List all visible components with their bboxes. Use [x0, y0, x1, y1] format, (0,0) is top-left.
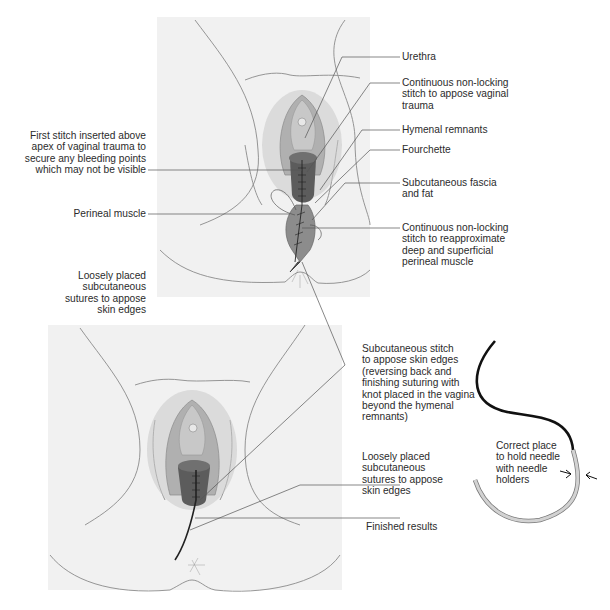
label-line: which may not be visible [0, 164, 146, 175]
label-line: Finished results [366, 521, 437, 532]
label-line: Continuous non-locking [402, 77, 508, 88]
label-line: and fat [402, 188, 497, 199]
label-line: with needle [496, 463, 560, 474]
label-line: beyond the hymenal [362, 400, 475, 411]
label-line: subcutaneous [362, 462, 443, 473]
label-first-stitch: First stitch inserted above apex of vagi… [0, 130, 146, 176]
label-line: (reversing back and [362, 366, 475, 377]
label-line: Subcutaneous fascia [402, 177, 497, 188]
label-line: apex of vaginal trauma to [0, 141, 146, 152]
label-line: First stitch inserted above [0, 130, 146, 141]
label-line: stitch to reapproximate [402, 233, 508, 244]
label-line: perineal muscle [402, 256, 508, 267]
label-subcutaneous-fascia: Subcutaneous fascia and fat [402, 177, 497, 200]
label-continuous-perineal-stitch: Continuous non-locking stitch to reappro… [402, 222, 508, 268]
label-line: Correct place [496, 440, 560, 451]
label-subcutaneous-stitch: Subcutaneous stitch to appose skin edges… [362, 343, 475, 423]
label-fourchette: Fourchette [402, 144, 451, 155]
label-line: remnants) [362, 411, 475, 422]
label-loosely-placed-left: Loosely placed subcutaneous sutures to a… [0, 270, 146, 316]
label-needle-hold: Correct place to hold needle with needle… [496, 440, 560, 486]
label-urethra: Urethra [402, 51, 436, 62]
label-line: Loosely placed [362, 451, 443, 462]
label-line: to appose skin edges [362, 354, 475, 365]
label-line: Urethra [402, 51, 436, 62]
label-line: stitch to appose vaginal [402, 88, 508, 99]
bottom-vulva [147, 390, 237, 575]
label-line: Continuous non-locking [402, 222, 508, 233]
label-line: knot placed in the vagina [362, 389, 475, 400]
label-line: secure any bleeding points [0, 153, 146, 164]
label-line: holders [496, 474, 560, 485]
label-line: Loosely placed [0, 270, 146, 281]
label-line: skin edges [0, 304, 146, 315]
label-line: finishing suturing with [362, 377, 475, 388]
label-line: sutures to appose [0, 293, 146, 304]
label-line: Perineal muscle [0, 208, 146, 219]
label-continuous-vaginal-stitch: Continuous non-locking stitch to appose … [402, 77, 508, 111]
label-loosely-placed-right: Loosely placed subcutaneous sutures to a… [362, 451, 443, 497]
label-perineal-muscle: Perineal muscle [0, 208, 146, 219]
label-line: Subcutaneous stitch [362, 343, 475, 354]
label-line: subcutaneous [0, 281, 146, 292]
label-line: skin edges [362, 485, 443, 496]
needle-illustration [475, 341, 597, 521]
label-finished-results: Finished results [366, 521, 437, 532]
label-line: Fourchette [402, 144, 451, 155]
label-hymenal-remnants: Hymenal remnants [402, 124, 488, 135]
label-line: to hold needle [496, 451, 560, 462]
label-line: trauma [402, 100, 508, 111]
label-line: sutures to appose [362, 474, 443, 485]
label-line: deep and superficial [402, 245, 508, 256]
label-line: Hymenal remnants [402, 124, 488, 135]
